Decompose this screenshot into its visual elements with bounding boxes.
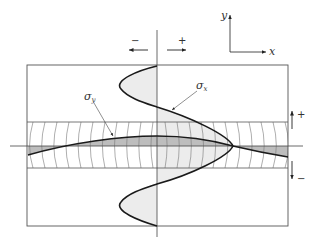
side-negative-sign: − [297, 173, 305, 184]
sigma-x-leader [172, 91, 197, 110]
stress-diagram-svg: σy σx − + + − y x [0, 0, 313, 246]
hatch-line [42, 122, 45, 168]
coord-x-label: x [269, 45, 276, 58]
hatch-line [273, 122, 276, 168]
top-negative-sign: − [131, 35, 139, 46]
sigma-y-label: σy [84, 90, 97, 104]
sigma-x-label: σx [196, 79, 208, 93]
side-positive-sign: + [297, 109, 305, 120]
top-positive-sign: + [178, 35, 186, 46]
hatch-line [54, 122, 57, 168]
diagram: σy σx − + + − y x [0, 0, 313, 246]
coord-y-label: y [220, 9, 228, 22]
hatch-line [249, 122, 252, 168]
hatch-line [30, 122, 33, 168]
hatch-line [261, 122, 264, 168]
hatch-line [237, 122, 240, 168]
